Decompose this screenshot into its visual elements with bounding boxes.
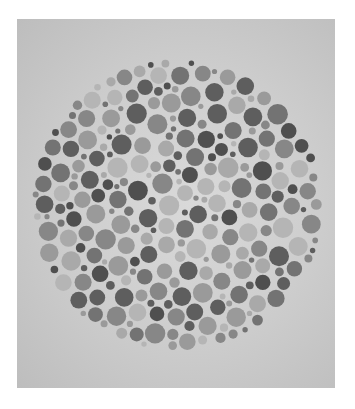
- dot: [276, 162, 284, 170]
- dot: [187, 239, 207, 259]
- dot: [36, 196, 54, 214]
- dot: [88, 307, 103, 322]
- dot: [70, 292, 87, 309]
- dot: [118, 106, 123, 111]
- dot: [107, 90, 122, 105]
- dot: [179, 262, 197, 280]
- dot: [141, 233, 153, 245]
- dot: [230, 152, 236, 158]
- dot: [247, 311, 252, 316]
- dot: [150, 161, 161, 172]
- dot: [198, 336, 207, 345]
- dot: [128, 181, 148, 201]
- dot: [74, 192, 90, 208]
- dot: [51, 266, 59, 274]
- dot: [220, 324, 228, 332]
- dot: [84, 92, 101, 109]
- dot: [204, 257, 209, 262]
- dot: [178, 239, 185, 246]
- dot: [89, 151, 105, 167]
- dot: [167, 329, 178, 340]
- dot: [117, 70, 133, 86]
- dot: [127, 321, 133, 327]
- dot: [173, 287, 192, 306]
- dot: [175, 169, 181, 175]
- dot: [193, 283, 213, 303]
- dot: [205, 83, 223, 101]
- dot: [78, 131, 97, 150]
- dot: [275, 139, 294, 158]
- dot: [57, 220, 64, 227]
- dot: [131, 155, 149, 173]
- dot: [163, 159, 176, 172]
- dot: [244, 107, 263, 126]
- dot: [275, 268, 284, 277]
- dot: [86, 204, 105, 223]
- dot: [81, 311, 86, 316]
- dot: [118, 237, 135, 254]
- dot: [38, 157, 52, 171]
- dot: [229, 330, 238, 339]
- dot: [66, 202, 73, 209]
- dot: [182, 167, 198, 183]
- dot: [211, 244, 230, 263]
- dot: [306, 154, 315, 163]
- dot: [79, 226, 95, 242]
- dot: [72, 160, 85, 173]
- dot: [202, 224, 217, 239]
- dot: [197, 178, 214, 195]
- dot: [108, 256, 128, 276]
- dot: [129, 304, 147, 322]
- dot: [162, 60, 170, 68]
- dot: [124, 207, 133, 216]
- dot: [281, 123, 297, 139]
- dot: [92, 266, 109, 283]
- dot: [103, 102, 109, 108]
- dot: [260, 203, 278, 221]
- dot: [184, 321, 194, 331]
- dot: [234, 261, 252, 279]
- dot: [232, 178, 252, 198]
- dot: [242, 327, 247, 332]
- dot: [111, 215, 130, 234]
- dot: [201, 197, 207, 203]
- dot: [139, 209, 157, 227]
- dot: [107, 152, 113, 158]
- dot: [213, 273, 230, 290]
- dot: [91, 189, 105, 203]
- dot: [71, 173, 77, 179]
- dot: [154, 87, 163, 96]
- dot: [226, 301, 232, 307]
- dot: [211, 214, 218, 221]
- dot: [287, 261, 302, 276]
- dot: [89, 290, 105, 306]
- dot: [127, 104, 147, 124]
- dot: [269, 246, 289, 266]
- dot: [225, 122, 242, 139]
- dot: [169, 277, 179, 287]
- dot: [134, 137, 151, 154]
- dot: [240, 163, 249, 172]
- dot: [60, 230, 77, 247]
- dot: [259, 149, 270, 160]
- dot: [219, 180, 231, 192]
- dot: [227, 308, 246, 327]
- dot: [107, 307, 126, 326]
- dot: [125, 124, 136, 135]
- dot: [81, 154, 87, 160]
- dot: [150, 282, 168, 300]
- dot: [81, 265, 87, 271]
- dot: [261, 225, 272, 236]
- dot: [311, 199, 322, 210]
- dot: [101, 172, 107, 178]
- dot: [199, 317, 217, 335]
- dot: [115, 128, 120, 133]
- dot: [212, 69, 217, 74]
- dot: [176, 220, 194, 238]
- dot: [94, 84, 101, 91]
- dot: [226, 262, 232, 268]
- dot: [277, 277, 290, 290]
- dot: [44, 214, 49, 219]
- dot: [78, 110, 95, 127]
- dot: [249, 295, 266, 312]
